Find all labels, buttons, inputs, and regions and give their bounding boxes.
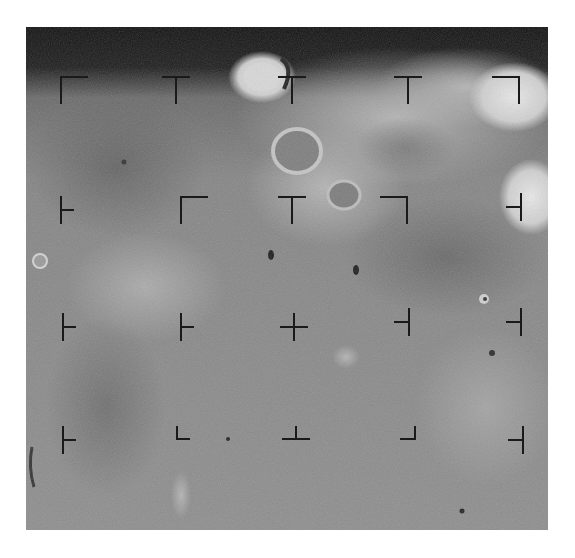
lunar-terrain <box>26 27 548 530</box>
lunar-surface-photo <box>26 27 548 530</box>
